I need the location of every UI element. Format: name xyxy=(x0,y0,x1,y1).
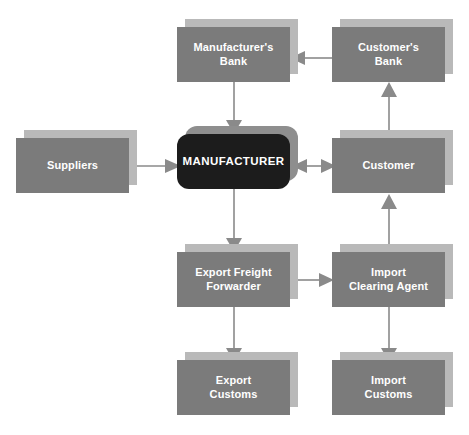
node-export-freight-forwarder[interactable]: Export Freight Forwarder xyxy=(177,252,290,307)
node-label: Customer's Bank xyxy=(354,41,423,69)
node-manufacturer[interactable]: MANUFACTURER xyxy=(177,134,290,189)
node-face: Customer's Bank xyxy=(332,27,445,82)
node-face: Suppliers xyxy=(16,138,129,193)
node-face: Import Customs xyxy=(332,360,445,415)
node-label: Export Freight Forwarder xyxy=(191,266,276,294)
node-face: Manufacturer's Bank xyxy=(177,27,290,82)
node-face: Customer xyxy=(332,138,445,193)
node-face: Import Clearing Agent xyxy=(332,252,445,307)
node-label: Manufacturer's Bank xyxy=(190,41,278,69)
node-import-customs[interactable]: Import Customs xyxy=(332,360,445,415)
node-suppliers[interactable]: Suppliers xyxy=(16,138,129,193)
node-label: Customer xyxy=(358,159,418,173)
node-export-customs[interactable]: Export Customs xyxy=(177,360,290,415)
node-customer[interactable]: Customer xyxy=(332,138,445,193)
node-customers-bank[interactable]: Customer's Bank xyxy=(332,27,445,82)
node-label: Import Clearing Agent xyxy=(345,266,432,294)
node-manufacturers-bank[interactable]: Manufacturer's Bank xyxy=(177,27,290,82)
flow-diagram: Manufacturer's Bank Customer's Bank Supp… xyxy=(0,0,469,435)
node-label: Import Customs xyxy=(361,374,417,402)
node-face: Export Customs xyxy=(177,360,290,415)
node-label: Suppliers xyxy=(43,159,102,173)
connector-manufacturer-to-customer xyxy=(292,156,336,176)
node-import-clearing-agent[interactable]: Import Clearing Agent xyxy=(332,252,445,307)
node-face: MANUFACTURER xyxy=(177,134,290,189)
node-face: Export Freight Forwarder xyxy=(177,252,290,307)
node-label: Export Customs xyxy=(206,374,262,402)
node-label: MANUFACTURER xyxy=(179,154,289,168)
